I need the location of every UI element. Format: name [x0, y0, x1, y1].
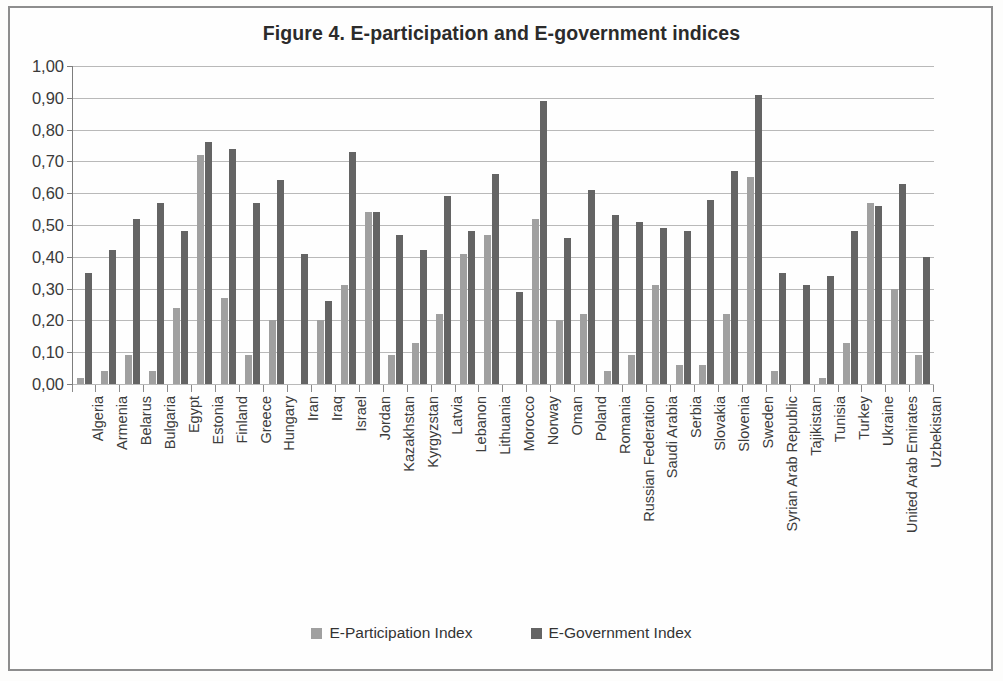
y-axis-tick-label: 0,30 — [32, 279, 64, 298]
bar — [652, 285, 659, 384]
bar-group — [240, 66, 264, 384]
bar — [253, 203, 260, 384]
bar-group — [456, 66, 480, 384]
bar-group — [839, 66, 863, 384]
x-axis-tick-mark — [766, 385, 790, 392]
bar — [747, 177, 754, 384]
x-axis-tick-mark — [862, 385, 886, 392]
y-axis-tick-label: 0,80 — [32, 120, 64, 139]
bar — [460, 254, 467, 384]
bar — [492, 174, 499, 384]
x-axis-label-cell: Russian Federation — [623, 392, 647, 577]
x-axis-label-cell: Norway — [527, 392, 551, 577]
bar-group — [384, 66, 408, 384]
x-axis-tick-mark — [359, 385, 383, 392]
x-axis-label-cell: Ukraine — [862, 392, 886, 577]
bar-group — [217, 66, 241, 384]
legend-item: E-Participation Index — [311, 624, 472, 642]
x-axis-label-cell: Syrian Arab Republic — [766, 392, 790, 577]
bar — [149, 371, 156, 384]
bar-group — [743, 66, 767, 384]
bar-group — [695, 66, 719, 384]
bar-group — [599, 66, 623, 384]
x-axis-tick-mark — [479, 385, 503, 392]
plot-area: 1,000,900,800,700,600,500,400,300,200,10… — [72, 66, 934, 385]
bar — [891, 289, 898, 384]
bar — [915, 355, 922, 384]
bar-group — [97, 66, 121, 384]
x-axis-label-cell: Estonia — [192, 392, 216, 577]
x-axis-tick-mark — [910, 385, 934, 392]
bar — [181, 231, 188, 384]
bar — [412, 343, 419, 384]
bar — [444, 196, 451, 384]
x-axis-label-cell: Serbia — [670, 392, 694, 577]
bar — [109, 250, 116, 384]
bar — [85, 273, 92, 384]
x-axis-tick-mark — [240, 385, 264, 392]
bar-group — [360, 66, 384, 384]
x-axis-label-cell: United Arab Emirates — [886, 392, 910, 577]
bar-group — [910, 66, 934, 384]
x-axis-label-cell: Turkey — [838, 392, 862, 577]
x-axis-tick-mark — [790, 385, 814, 392]
bar-group — [528, 66, 552, 384]
bar — [723, 314, 730, 384]
bar — [636, 222, 643, 384]
bar — [468, 231, 475, 384]
bar — [755, 95, 762, 384]
y-axis-tick-label: 0,00 — [32, 375, 64, 394]
bar-group — [551, 66, 575, 384]
bar — [604, 371, 611, 384]
x-axis-tick-mark — [311, 385, 335, 392]
x-axis-label-cell: Romania — [599, 392, 623, 577]
x-axis-tick-mark — [599, 385, 623, 392]
y-axis-tick-label: 0,50 — [32, 216, 64, 235]
bar — [133, 219, 140, 384]
bar-group — [671, 66, 695, 384]
bar-group — [767, 66, 791, 384]
x-axis-label-cell: Poland — [575, 392, 599, 577]
x-axis-tick-mark — [383, 385, 407, 392]
bar-group — [623, 66, 647, 384]
bar-group — [647, 66, 671, 384]
x-axis-label-cell: Slovenia — [718, 392, 742, 577]
bar — [173, 308, 180, 384]
bar — [205, 142, 212, 384]
bar — [221, 298, 228, 384]
bar — [516, 292, 523, 384]
x-axis-tick-mark — [287, 385, 311, 392]
bar — [707, 200, 714, 384]
x-axis-tick-label: Uzbekistan — [929, 396, 944, 468]
x-axis-label-cell: Latvia — [431, 392, 455, 577]
bar — [628, 355, 635, 384]
bar — [349, 152, 356, 384]
bar-group — [145, 66, 169, 384]
x-axis-label-cell: Hungary — [264, 392, 288, 577]
bar — [923, 257, 930, 384]
x-axis-tick-mark — [407, 385, 431, 392]
bar-group — [886, 66, 910, 384]
bar — [779, 273, 786, 384]
x-axis-labels: AlgeriaArmeniaBelarusBulgariaEgyptEstoni… — [72, 392, 934, 577]
bar-group — [575, 66, 599, 384]
bar — [420, 250, 427, 384]
x-axis-tick-mark — [718, 385, 742, 392]
x-axis-tick-mark — [216, 385, 240, 392]
bar — [317, 320, 324, 384]
x-axis-label-cell: Tajikistan — [790, 392, 814, 577]
bar — [843, 343, 850, 384]
x-axis-tick-mark — [886, 385, 910, 392]
y-axis-tick-label: 0,40 — [32, 247, 64, 266]
bar — [373, 212, 380, 384]
y-axis-tick-label: 0,70 — [32, 152, 64, 171]
bar — [277, 180, 284, 384]
x-axis-label-cell: Kyrgyzstan — [407, 392, 431, 577]
x-axis-tick-mark — [144, 385, 168, 392]
bar-group — [791, 66, 815, 384]
bar-group — [432, 66, 456, 384]
square-swatch-icon — [311, 628, 322, 639]
bar — [771, 371, 778, 384]
bar — [301, 254, 308, 384]
bar — [396, 235, 403, 384]
